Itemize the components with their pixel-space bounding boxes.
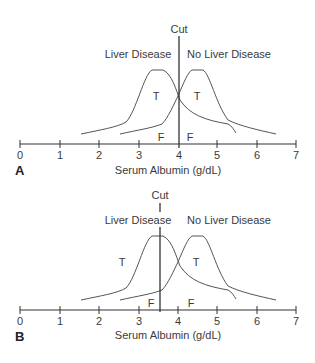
cut-label-a: Cut: [170, 23, 187, 35]
x-axis-title-a: Serum Albumin (g/dL): [115, 164, 221, 176]
svg-text:3: 3: [136, 149, 142, 161]
false-label-right-b: F: [188, 297, 195, 309]
true-label-right-b: T: [193, 256, 200, 268]
panel-b: Cut Liver Disease No Liver Disease T T F…: [15, 189, 299, 344]
svg-text:7: 7: [293, 315, 299, 327]
x-axis-title-b: Serum Albumin (g/dL): [115, 329, 221, 341]
panel-a: Cut Liver Disease No Liver Disease T T F…: [15, 23, 299, 178]
true-label-right-a: T: [194, 90, 201, 102]
false-label-right-a: F: [187, 131, 194, 143]
svg-text:0: 0: [17, 315, 23, 327]
svg-text:4: 4: [176, 149, 182, 161]
svg-text:2: 2: [96, 315, 102, 327]
true-label-left-a: T: [153, 90, 160, 102]
no-liver-disease-label-b: No Liver Disease: [187, 214, 271, 226]
panel-label-a: A: [15, 163, 25, 178]
liver-disease-label-b: Liver Disease: [105, 214, 172, 226]
liver-disease-label-a: Liver Disease: [105, 48, 172, 60]
tick-labels-a: 0 1 2 3 4 5 6 7: [17, 149, 299, 161]
false-label-left-b: F: [148, 297, 155, 309]
svg-text:4: 4: [175, 315, 181, 327]
svg-text:5: 5: [214, 315, 220, 327]
panel-label-b: B: [15, 329, 24, 344]
svg-text:1: 1: [57, 315, 63, 327]
liver-disease-curve-a: [81, 70, 236, 134]
no-liver-disease-label-a: No Liver Disease: [187, 48, 271, 60]
tick-labels-b: 0 1 2 3 4 5 6 7: [17, 315, 299, 327]
true-label-left-b: T: [119, 256, 126, 268]
svg-text:1: 1: [57, 149, 63, 161]
false-label-left-a: F: [158, 131, 165, 143]
svg-text:2: 2: [96, 149, 102, 161]
no-liver-disease-curve-a: [120, 70, 276, 134]
svg-text:0: 0: [17, 149, 23, 161]
svg-text:5: 5: [214, 149, 220, 161]
svg-text:7: 7: [293, 149, 299, 161]
svg-text:6: 6: [254, 315, 260, 327]
cut-label-b: Cut: [151, 189, 168, 201]
svg-text:6: 6: [254, 149, 260, 161]
figure: Cut Liver Disease No Liver Disease T T F…: [0, 0, 315, 363]
svg-text:3: 3: [136, 315, 142, 327]
liver-disease-curve-b: [81, 236, 236, 300]
no-liver-disease-curve-b: [120, 236, 276, 300]
